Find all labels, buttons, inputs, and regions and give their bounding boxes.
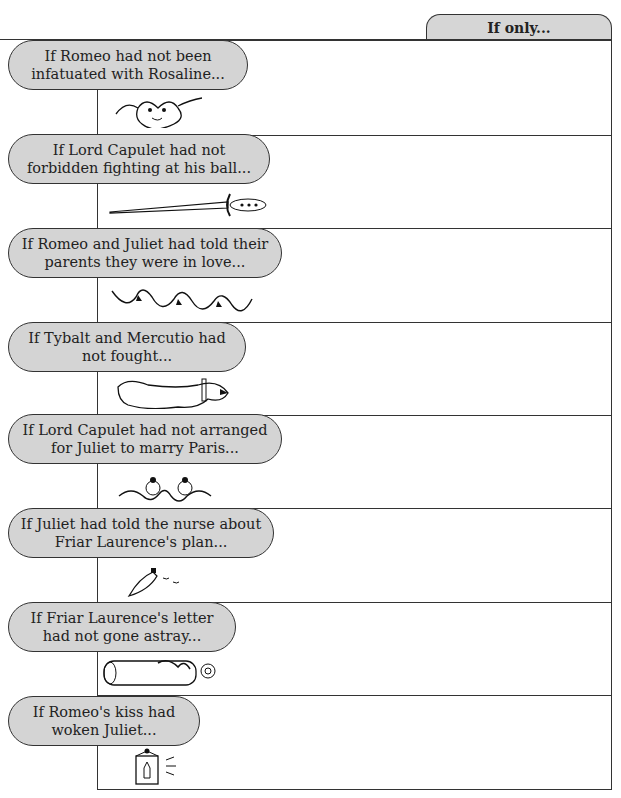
scroll-letter-icon (100, 655, 220, 691)
prompt-pill-1: If Romeo had not been infatuated with Ro… (8, 40, 248, 90)
prompt-pill-5: If Lord Capulet had not arranged for Jul… (8, 414, 282, 464)
prompt-pill-6: If Juliet had told the nurse about Friar… (8, 508, 274, 558)
prompt-pill-4: If Tybalt and Mercutio had not fought... (8, 322, 246, 372)
lantern-icon (130, 748, 190, 788)
prompt-pill-8: If Romeo's kiss had woken Juliet... (8, 696, 200, 746)
smiling-face-with-ribbons-icon (108, 92, 268, 128)
snarling-dog-icon (108, 373, 248, 409)
prompt-pill-3: If Romeo and Juliet had told their paren… (8, 228, 282, 278)
prompt-pill-7: If Friar Laurence's letter had not gone … (8, 602, 236, 652)
vial-icon (125, 566, 185, 602)
dagger-icon (108, 186, 268, 222)
floral-vine-icon (108, 281, 268, 317)
prompt-pill-2: If Lord Capulet had not forbidden fighti… (8, 134, 270, 184)
if-only-header-tab: If only... (426, 14, 612, 40)
twin-birds-knot-icon (115, 470, 225, 506)
